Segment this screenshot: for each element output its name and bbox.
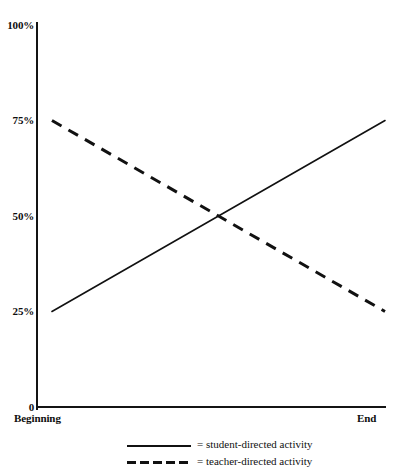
legend-entry-student: = student-directed activity — [127, 437, 387, 454]
legend-entry-teacher: = teacher-directed activity — [127, 454, 387, 471]
y-tick-label-0: 0 — [0, 402, 34, 413]
series-plot-lines — [0, 0, 412, 475]
x-axis-line — [36, 406, 386, 408]
legend-label-student: = student-directed activity — [197, 437, 313, 452]
series-line-teacher-directed-activity — [52, 121, 385, 312]
y-tick-label-25: 25% — [0, 306, 34, 317]
y-axis-line — [36, 22, 38, 410]
y-tick-label-100: 100% — [0, 20, 34, 31]
x-axis-label-end: End — [357, 412, 376, 425]
chart-legend: = student-directed activity = teacher-di… — [127, 437, 387, 471]
y-tick-label-50: 50% — [0, 211, 34, 222]
solid-line-sample-icon — [127, 445, 191, 447]
series-line-student-directed-activity — [52, 121, 385, 312]
y-tick-label-75: 75% — [0, 115, 34, 126]
y-axis-tick-labels: 100% 75% 50% 25% 0 — [0, 0, 34, 475]
legend-label-teacher: = teacher-directed activity — [197, 454, 312, 469]
dashed-line-sample-icon — [127, 461, 191, 464]
x-axis-label-beginning: Beginning — [14, 412, 61, 425]
line-chart-figure: 100% 75% 50% 25% 0 Beginning End = stude… — [0, 0, 412, 475]
